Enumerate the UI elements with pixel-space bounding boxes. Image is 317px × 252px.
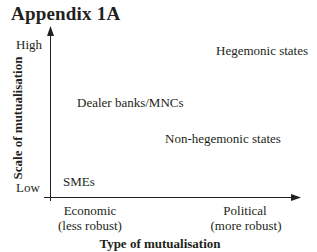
y-axis-high-label: High: [16, 37, 42, 53]
point-label-hegemonic-states: Hegemonic states: [216, 43, 308, 59]
point-label-dealer-banks-mncs: Dealer banks/MNCs: [77, 95, 184, 111]
x-axis-arrowhead-icon: [291, 194, 301, 201]
x-axis-right-label-line2: (more robust): [203, 218, 289, 234]
x-axis-right-label-line1: Political: [210, 203, 280, 219]
y-axis-title: Scale of mutualisation: [10, 57, 26, 180]
point-label-non-hegemonic-states: Non-hegemonic states: [165, 131, 281, 147]
point-label-smes: SMEs: [63, 174, 95, 190]
x-axis-left-label-line2: (less robust): [50, 218, 130, 234]
y-axis-arrowhead-icon: [47, 26, 54, 36]
y-axis-low-label: Low: [16, 180, 40, 196]
x-axis-left-label-line1: Economic: [55, 203, 125, 219]
x-axis-title: Type of mutualisation: [80, 236, 240, 252]
